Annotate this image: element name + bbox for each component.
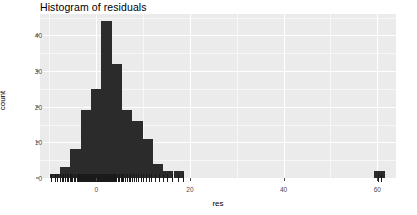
gridline-minor-horizontal — [40, 53, 396, 54]
rug-plot — [40, 174, 396, 182]
gridline-major-vertical — [284, 14, 285, 178]
histogram-bar — [91, 89, 101, 178]
rug-tick — [60, 174, 61, 182]
x-tick-mark — [190, 178, 191, 181]
gridline-major-vertical — [190, 14, 191, 178]
rug-tick — [178, 174, 179, 182]
rug-tick — [51, 174, 52, 182]
gridline-minor-vertical — [49, 14, 50, 178]
rug-tick — [136, 174, 137, 182]
rug-tick — [130, 174, 131, 182]
rug-tick — [141, 174, 142, 182]
x-axis-title: res — [212, 199, 223, 208]
gridline-major-vertical — [377, 14, 378, 178]
histogram-bar — [81, 110, 91, 178]
chart-title: Histogram of residuals — [40, 1, 147, 13]
x-tick-mark — [96, 178, 97, 181]
histogram-bar — [122, 110, 132, 178]
rug-tick — [62, 174, 63, 182]
rug-tick — [183, 174, 184, 182]
rug-tick — [159, 174, 160, 182]
x-tick-mark — [377, 178, 378, 181]
rug-tick — [138, 174, 139, 182]
rug-tick — [381, 174, 382, 182]
histogram-bar — [143, 139, 153, 178]
y-tick-mark — [36, 71, 39, 72]
rug-tick — [132, 174, 133, 182]
rug-tick — [149, 174, 150, 182]
rug-tick — [146, 174, 147, 182]
rug-tick — [143, 174, 144, 182]
rug-tick — [378, 174, 379, 182]
rug-tick — [172, 174, 173, 182]
histogram-bar — [132, 121, 142, 178]
y-tick-mark — [36, 142, 39, 143]
rug-tick — [57, 174, 58, 182]
gridline-minor-vertical — [237, 14, 238, 178]
gridline-minor-horizontal — [40, 18, 396, 19]
rug-tick — [127, 174, 128, 182]
rug-tick — [63, 174, 64, 182]
y-tick-mark — [36, 35, 39, 36]
x-tick-label: 20 — [186, 186, 193, 193]
histogram-chart: Histogram of residuals 010203040 0204060… — [0, 0, 417, 215]
plot-panel — [40, 14, 396, 178]
x-tick-mark — [284, 178, 285, 181]
histogram-bar — [112, 64, 122, 178]
x-tick-label: 60 — [374, 186, 381, 193]
x-tick-label: 40 — [280, 186, 287, 193]
y-axis-title: count — [0, 91, 7, 111]
rug-tick — [129, 174, 130, 182]
y-tick-mark — [36, 178, 39, 179]
rug-tick — [55, 174, 56, 182]
rug-tick — [125, 174, 126, 182]
gridline-major-horizontal — [40, 35, 396, 36]
gridline-minor-vertical — [330, 14, 331, 178]
rug-tick — [155, 174, 156, 182]
histogram-bar — [101, 21, 111, 178]
rug-tick — [151, 174, 152, 182]
y-tick-mark — [36, 106, 39, 107]
rug-tick — [167, 174, 168, 182]
rug-tick — [134, 174, 135, 182]
rug-tick — [163, 174, 164, 182]
x-tick-label: 0 — [94, 186, 98, 193]
gridline-major-horizontal — [40, 71, 396, 72]
